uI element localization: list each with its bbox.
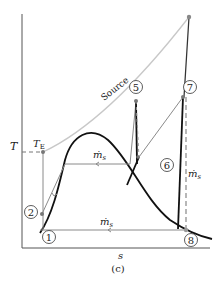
state-7-label: 7 — [187, 82, 193, 93]
mdot-right-label: ṁs — [188, 168, 201, 181]
state-8-label: 8 — [188, 235, 194, 246]
process-6-down — [127, 157, 139, 185]
figure-caption: (c) — [111, 263, 125, 274]
state-7-point — [181, 95, 185, 99]
process-6-7 — [139, 97, 183, 157]
source-top-point — [187, 15, 191, 19]
state-8-point — [184, 228, 188, 232]
process-to-5 — [130, 101, 136, 164]
y-axis-label: T — [10, 140, 19, 153]
x-axis-label: s — [118, 250, 123, 261]
state-5-point — [134, 99, 138, 103]
state-6-label: 6 — [164, 160, 170, 171]
state-6-point — [136, 155, 140, 159]
state-2-label: 2 — [28, 207, 34, 218]
ts-diagram: 1 2 5 6 7 8 T s (c) TE Source ṁs ṁs ṁs — [0, 0, 222, 284]
process-7-8 — [178, 97, 183, 229]
process-5-6 — [136, 101, 137, 164]
mdot-top-label: ṁs — [93, 149, 106, 162]
mdot-bottom-label: ṁs — [100, 216, 113, 229]
state-1-label: 1 — [46, 232, 52, 243]
state-5-label: 5 — [133, 82, 139, 93]
state-2-point — [40, 212, 44, 216]
te-label: TE — [33, 138, 45, 151]
